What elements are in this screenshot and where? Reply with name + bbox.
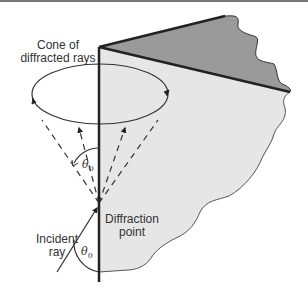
diffraction-point-label: Diffraction point (104, 213, 160, 239)
theta-upper-label: θ0 (82, 158, 94, 173)
cone-label: Cone of diffracted rays (14, 39, 102, 65)
theta-lower-label: θ0 (81, 245, 93, 260)
incident-ray-label: Incident ray (32, 233, 82, 259)
